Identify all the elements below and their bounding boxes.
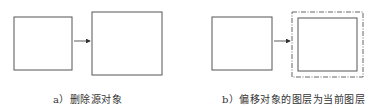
panel-a-source-box [14, 17, 72, 70]
panel-b-offset-dashed-box [292, 12, 363, 77]
panel-b-caption: b）偏移对象的图层为当前图层 [222, 91, 365, 106]
panel-b-result-box [298, 18, 357, 71]
panel-a-caption: a）删除源对象 [53, 91, 122, 106]
panel-b-source-box [212, 17, 272, 70]
panel-a-result-box [92, 12, 162, 75]
